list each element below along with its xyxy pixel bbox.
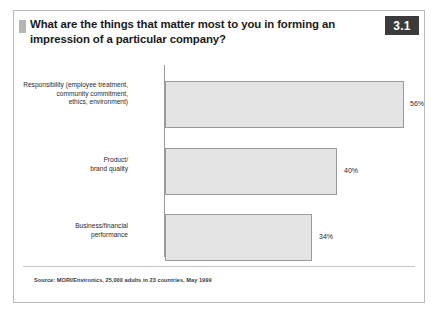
page-title: What are the things that matter most to …	[30, 17, 360, 46]
bar-category-label-line: Business/financial	[0, 222, 128, 231]
chart-bar	[165, 81, 404, 128]
chart-bar	[165, 148, 337, 195]
footer-divider	[23, 266, 415, 267]
bar-category-label-line: performance	[0, 231, 128, 240]
chart-plot-area: Responsibility (employee treatment, comm…	[14, 59, 424, 259]
figure-header: What are the things that matter most to …	[14, 11, 424, 59]
bar-category-label: Responsibility (employee treatment, comm…	[0, 81, 128, 107]
bar-value-label: 34%	[319, 233, 333, 240]
bar-value-label: 56%	[410, 100, 424, 107]
bar-category-label-line: Product/	[0, 156, 128, 165]
figure-container: What are the things that matter most to …	[13, 10, 425, 303]
bar-category-label-line: community commitment,	[0, 90, 128, 99]
bar-category-label-line: brand quality	[0, 165, 128, 174]
source-note: Source: MORI/Environics, 25,000 adults i…	[34, 277, 212, 283]
bar-category-label: Business/financial performance	[0, 222, 128, 239]
bar-value-label: 40%	[344, 167, 358, 174]
title-accent-mark	[19, 20, 26, 33]
bar-category-label: Product/ brand quality	[0, 156, 128, 173]
bar-category-label-line: ethics, environment)	[0, 98, 128, 107]
bar-category-label-line: Responsibility (employee treatment,	[0, 81, 128, 90]
chart-bar	[165, 214, 312, 261]
figure-number-badge: 3.1	[385, 16, 419, 35]
